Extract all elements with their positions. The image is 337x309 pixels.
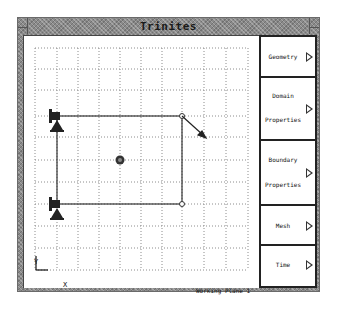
geometry-button[interactable]: Geometry xyxy=(261,37,315,78)
mesh-button[interactable]: Mesh xyxy=(261,206,315,246)
domain-label: Domain xyxy=(261,92,305,99)
triangle-right-icon xyxy=(306,104,313,114)
boundary-label: Boundary xyxy=(261,156,305,163)
center-point-icon xyxy=(116,156,125,165)
axis-x-label: X xyxy=(63,281,67,289)
load-arrow-icon xyxy=(182,116,206,138)
window-title: Trinites xyxy=(18,20,319,33)
geometry-label: Geometry xyxy=(261,53,305,60)
triangle-right-icon xyxy=(306,260,313,270)
triangle-right-icon xyxy=(306,52,313,62)
vertex-bottom-right xyxy=(180,202,185,207)
working-plane-label: Working Plane 1 xyxy=(196,287,250,294)
resize-handle-right-h xyxy=(310,27,319,28)
canvas-drawing xyxy=(24,36,260,289)
time-label: Time xyxy=(261,261,305,268)
axis-y-label: Y xyxy=(34,258,38,266)
domain-properties-button[interactable]: Domain Properties xyxy=(261,78,315,141)
properties-label: Properties xyxy=(261,181,305,188)
triangle-right-icon xyxy=(306,221,313,231)
dotted-grid xyxy=(35,48,248,270)
boundary-properties-button[interactable]: Boundary Properties xyxy=(261,141,315,206)
title-bar[interactable]: Trinites xyxy=(18,18,319,35)
drawing-canvas[interactable]: Y X Working Plane 1 xyxy=(23,35,259,288)
properties-label: Properties xyxy=(261,116,305,123)
time-button[interactable]: Time xyxy=(261,246,315,286)
triangle-right-icon xyxy=(306,168,313,178)
trinites-window: Trinites xyxy=(17,17,320,292)
mesh-label: Mesh xyxy=(261,222,305,229)
fixed-support-icon-bottom xyxy=(49,197,64,220)
command-panel: Geometry Domain Properties Boundary Prop… xyxy=(259,35,317,288)
resize-handle-right[interactable] xyxy=(309,18,310,34)
